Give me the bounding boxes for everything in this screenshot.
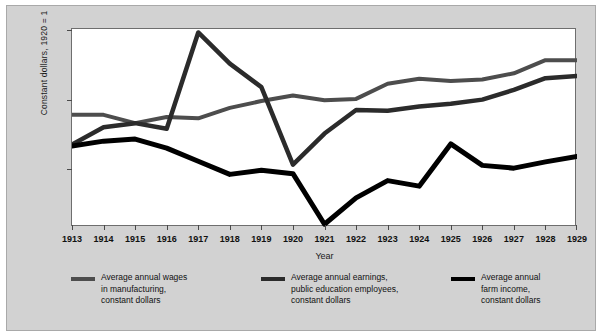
x-tick-mark — [388, 225, 389, 230]
legend-label: Average annualfarm income,constant dolla… — [481, 272, 541, 307]
legend-wages: Average annual wagesin manufacturing,con… — [71, 272, 261, 307]
x-tick-mark — [419, 225, 420, 230]
x-tick-mark — [261, 225, 262, 230]
x-tick-mark — [514, 225, 515, 230]
line-series-farm — [72, 139, 577, 224]
x-tick-mark — [293, 225, 294, 230]
legend-label-line: constant dollars — [291, 295, 398, 307]
legend-label-line: Average annual — [481, 272, 541, 284]
x-tick-mark — [451, 225, 452, 230]
y-tick-mark — [67, 169, 72, 170]
y-axis-title: Constant dollars, 1920 = 1 — [39, 0, 49, 148]
legend-label-line: constant dollars — [481, 295, 541, 307]
x-tick-mark — [356, 225, 357, 230]
plot-area: 200015001000 191319141915191619171918191… — [71, 28, 576, 226]
plot-svg — [72, 29, 577, 227]
y-tick-mark — [67, 100, 72, 101]
x-axis-title: Year — [72, 251, 577, 261]
legend-swatch-icon — [451, 277, 475, 281]
legend-label-line: farm income, — [481, 284, 541, 296]
chart-figure: 200015001000 191319141915191619171918191… — [6, 5, 596, 331]
legend-farm: Average annualfarm income,constant dolla… — [451, 272, 581, 307]
y-tick-mark — [67, 30, 72, 31]
x-tick-label: 1929 — [557, 234, 597, 244]
legend-label-line: Average annual wages — [101, 272, 187, 284]
legend-label: Average annual earnings,public education… — [291, 272, 398, 307]
x-tick-mark — [198, 225, 199, 230]
x-tick-mark — [104, 225, 105, 230]
x-tick-mark — [230, 225, 231, 230]
legend-swatch-icon — [71, 277, 95, 281]
x-tick-mark — [576, 225, 577, 230]
x-tick-mark — [545, 225, 546, 230]
x-tick-mark — [325, 225, 326, 230]
legend-swatch-icon — [261, 277, 285, 281]
chart-legend: Average annual wagesin manufacturing,con… — [71, 272, 581, 307]
x-tick-mark — [135, 225, 136, 230]
x-tick-mark — [482, 225, 483, 230]
x-tick-mark — [72, 225, 73, 230]
legend-label-line: public education employees, — [291, 284, 398, 296]
legend-label: Average annual wagesin manufacturing,con… — [101, 272, 187, 307]
legend-education: Average annual earnings,public education… — [261, 272, 451, 307]
legend-label-line: in manufacturing, — [101, 284, 187, 296]
x-tick-mark — [167, 225, 168, 230]
legend-label-line: Average annual earnings, — [291, 272, 398, 284]
legend-label-line: constant dollars — [101, 295, 187, 307]
